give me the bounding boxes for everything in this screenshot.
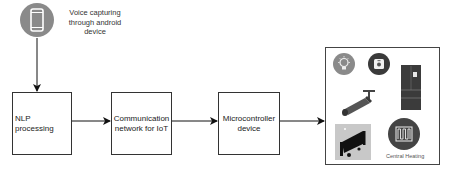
air-conditioner-icon: [335, 124, 371, 160]
microcontroller-node: Microcontroller device: [218, 92, 280, 155]
communication-label-line-2: network for IoT: [114, 124, 170, 134]
source-caption: Voice capturing through android device: [60, 8, 130, 37]
nlp-processing-node: NLP processing: [12, 92, 72, 155]
cctv-camera-icon: [339, 88, 379, 118]
microcontroller-label-line-1: Microcontroller: [223, 114, 275, 124]
socket-icon: [368, 53, 390, 75]
fridge-icon: [401, 65, 421, 110]
microcontroller-label-line-2: device: [223, 124, 275, 134]
source-caption-line-3: device: [60, 27, 130, 37]
smartphone-icon: [20, 3, 54, 37]
central-heating-label: Central Heating: [386, 153, 424, 159]
nlp-processing-label: NLP processing: [15, 114, 71, 134]
source-caption-line-2: through android: [60, 18, 130, 28]
source-caption-line-1: Voice capturing: [60, 8, 130, 18]
appliances-group: Central Heating: [325, 47, 440, 165]
communication-network-node: Communication network for IoT: [111, 92, 172, 155]
communication-label-line-1: Communication: [114, 114, 170, 124]
lightbulb-icon: [333, 53, 355, 75]
heating-coil-icon: [388, 118, 420, 150]
